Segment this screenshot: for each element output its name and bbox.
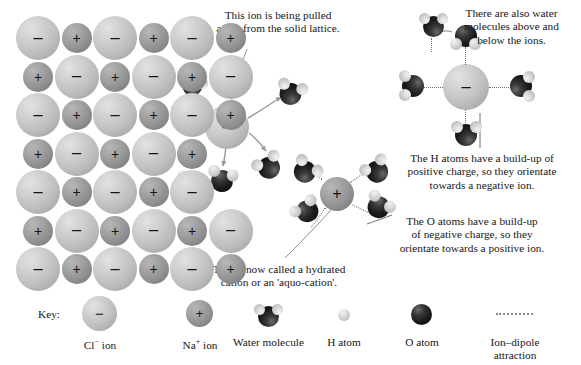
lattice-cation-sign: + [149, 185, 157, 199]
lattice-cation: + [100, 216, 130, 246]
key-swatch-hydrogen-atom [338, 309, 350, 321]
hydrated-cation-sign: + [332, 186, 341, 202]
key-swatch-sodium-ion: + [186, 300, 213, 327]
lattice-anion-sign: − [109, 106, 120, 125]
lattice-cation: + [216, 254, 246, 284]
lattice-cation-sign: + [188, 147, 196, 161]
lattice-anion-sign: − [109, 183, 120, 202]
lattice-anion-sign: − [186, 29, 197, 48]
lattice-anion-sign: − [225, 67, 236, 86]
lattice-cation: + [62, 23, 92, 53]
callout-h-atoms-line1: The H atoms have a build-up of [386, 152, 578, 165]
lattice-cation-sign: + [149, 31, 157, 45]
hydrated-anion-sign: − [460, 78, 471, 97]
lattice-anion: − [132, 132, 176, 176]
lattice-cation: + [216, 23, 246, 53]
key-label-chloride-ion: Cl− ion [60, 336, 140, 351]
lattice-cation: + [23, 139, 53, 169]
lattice-anion: − [170, 247, 214, 291]
lattice-anion: − [55, 55, 99, 99]
lattice-anion: − [170, 16, 214, 60]
key-swatch-ion-dipole [496, 313, 533, 315]
water-molecule-above-below [418, 10, 448, 37]
lattice-cation: + [62, 100, 92, 130]
lattice-anion-sign: − [148, 67, 159, 86]
lattice-cation-sign: + [188, 70, 196, 84]
lattice-cation-sign: + [188, 224, 196, 238]
water-molecule-free-2 [247, 146, 289, 186]
lattice-anion-sign: − [32, 260, 43, 279]
lattice-cation: + [100, 139, 130, 169]
hydrated-anion-core: − [443, 64, 489, 110]
lattice-anion-sign: − [186, 106, 197, 125]
water-molecule-cation-upper-left [285, 149, 327, 190]
key-legend: Key: − Cl− ion + Na+ ion Water molecule … [0, 293, 581, 365]
callout-o-atoms-line1: The O atoms have a build-up [372, 215, 572, 228]
lattice-anion: − [16, 170, 60, 214]
lattice-anion: − [16, 247, 60, 291]
lattice-anion-sign: − [71, 221, 82, 240]
lattice-anion-sign: − [71, 67, 82, 86]
key-sodium-sign: + [196, 307, 204, 320]
lattice-cation: + [177, 216, 207, 246]
lattice-cation: + [216, 100, 246, 130]
lattice-cation-sign: + [226, 31, 234, 45]
key-label-ion-dipole: Ion–dipoleattraction [466, 336, 564, 361]
water-molecule-anion-right [510, 70, 538, 102]
lattice-anion: − [93, 247, 137, 291]
lattice-cation: + [139, 23, 169, 53]
key-swatch-chloride-ion: − [82, 296, 117, 331]
diagram-canvas: −+−+−++−+−+−−+−+−++−+−+−+−+−+−+−+−−+−+−+… [0, 0, 581, 365]
water-molecule-anion-left [396, 70, 424, 102]
lattice-cation: + [139, 100, 169, 130]
hydrated-cation-core: + [320, 177, 354, 211]
callout-o-atoms: The O atoms have a build-up of negative … [372, 215, 572, 255]
key-label-water-molecule: Water molecule [221, 336, 316, 349]
lattice-anion-sign: − [109, 260, 120, 279]
lattice-anion-sign: − [148, 221, 159, 240]
lattice-cation: + [177, 139, 207, 169]
lattice-cation: + [23, 216, 53, 246]
callout-h-atoms: The H atoms have a build-up of positive … [386, 152, 578, 192]
lattice-anion: − [132, 55, 176, 99]
lattice-anion: − [55, 209, 99, 253]
lattice-cation-sign: + [111, 147, 119, 161]
lattice-anion-sign: − [186, 183, 197, 202]
lattice-cation: + [139, 254, 169, 284]
lattice-anion: − [16, 16, 60, 60]
key-chloride-sign: − [95, 306, 104, 321]
lattice-anion-sign: − [32, 29, 43, 48]
lattice-anion: − [16, 93, 60, 137]
lattice-cation-sign: + [149, 262, 157, 276]
lattice-cation: + [23, 62, 53, 92]
callout-o-atoms-line2: of negative charge, so they [372, 228, 572, 241]
water-molecule-free-1 [272, 74, 310, 110]
lattice-anion-sign: − [32, 106, 43, 125]
callout-h-atoms-line2: positive charge, so they orientate [386, 165, 578, 178]
lattice-anion: − [93, 170, 137, 214]
lattice-anion: − [209, 209, 253, 253]
lattice-anion: − [132, 209, 176, 253]
lattice-anion: − [209, 55, 253, 99]
lattice-anion-sign: − [109, 29, 120, 48]
lattice-cation-sign: + [72, 31, 80, 45]
ion-dipole-bond-above-below [431, 38, 432, 52]
callout-h-atoms-line3: towards a negative ion. [386, 179, 578, 192]
callout-above-below: There are also water molecules above and… [449, 7, 574, 47]
lattice-anion: − [55, 132, 99, 176]
lattice-cation-sign: + [226, 108, 234, 122]
lattice-cation-sign: + [34, 70, 42, 84]
lattice-cation: + [139, 177, 169, 207]
ion-dipole-bond-anion-right [489, 87, 511, 88]
arrow-anion-to-water-lower-right [249, 133, 266, 151]
lattice-anion: − [93, 16, 137, 60]
lattice-cation: + [62, 254, 92, 284]
lattice-anion-sign: − [186, 260, 197, 279]
lattice-cation-sign: + [34, 147, 42, 161]
lattice-anion: − [170, 170, 214, 214]
lattice-cation-sign: + [111, 224, 119, 238]
callout-pulled-away-line1: This ion is being pulled [213, 9, 343, 22]
callout-above-below-line1: There are also water [449, 7, 574, 20]
lattice-anion-sign: − [225, 221, 236, 240]
lattice-cation-sign: + [72, 262, 80, 276]
